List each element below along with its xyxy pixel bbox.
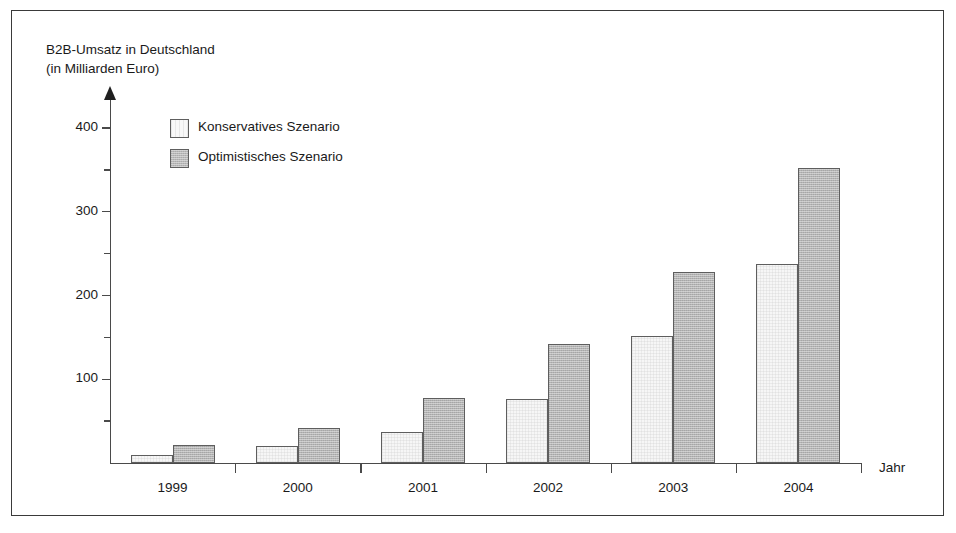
x-axis-label-2003: 2003 (628, 480, 718, 495)
x-axis-tick (611, 463, 612, 473)
bar-2004-optimistisch (798, 168, 840, 463)
y-axis-tick-major (102, 295, 111, 296)
x-axis-label-2004: 2004 (753, 480, 843, 495)
y-axis-tick-minor (104, 253, 111, 254)
x-axis-tick (486, 463, 487, 473)
bar-2004-konservativ (756, 264, 798, 463)
x-axis-label-2001: 2001 (378, 480, 468, 495)
bar-1999-konservativ (131, 455, 173, 463)
bar-2003-konservativ (631, 336, 673, 463)
y-axis-tick-minor (104, 169, 111, 170)
legend-swatch-icon (170, 119, 189, 138)
bar-2000-optimistisch (298, 428, 340, 463)
chart-title-line-2: (in Milliarden Euro) (46, 59, 159, 78)
y-axis-arrow-icon (104, 86, 116, 100)
y-axis-tick-label: 400 (52, 119, 98, 134)
chart-canvas: B2B-Umsatz in Deutschland (in Milliarden… (0, 0, 956, 533)
y-axis-tick-minor (104, 420, 111, 421)
x-axis-tick (235, 463, 236, 473)
legend-label: Konservatives Szenario (198, 119, 340, 134)
x-axis-label-1999: 1999 (128, 480, 218, 495)
x-axis-end-tick (861, 463, 862, 473)
x-axis-title: Jahr (879, 460, 905, 475)
y-axis-tick-label: 100 (52, 370, 98, 385)
bar-2003-optimistisch (673, 272, 715, 463)
legend-label: Optimistisches Szenario (198, 149, 343, 164)
y-axis-tick-minor (104, 337, 111, 338)
bar-2001-konservativ (381, 432, 423, 463)
x-axis-label-2002: 2002 (503, 480, 593, 495)
chart-title-line-1: B2B-Umsatz in Deutschland (46, 40, 215, 59)
bar-2001-optimistisch (423, 398, 465, 463)
bar-2000-konservativ (256, 446, 298, 463)
y-axis-tick-label: 200 (52, 287, 98, 302)
legend-swatch-icon (170, 149, 189, 168)
y-axis-tick-label: 300 (52, 203, 98, 218)
y-axis-line (110, 96, 111, 464)
bar-1999-optimistisch (173, 445, 215, 463)
bar-2002-konservativ (506, 399, 548, 463)
x-axis-label-2000: 2000 (253, 480, 343, 495)
y-axis-tick-major (102, 127, 111, 128)
y-axis-tick-major (102, 211, 111, 212)
x-axis-tick (360, 463, 361, 473)
x-axis-tick (736, 463, 737, 473)
y-axis-tick-major (102, 379, 111, 380)
bar-2002-optimistisch (548, 344, 590, 463)
